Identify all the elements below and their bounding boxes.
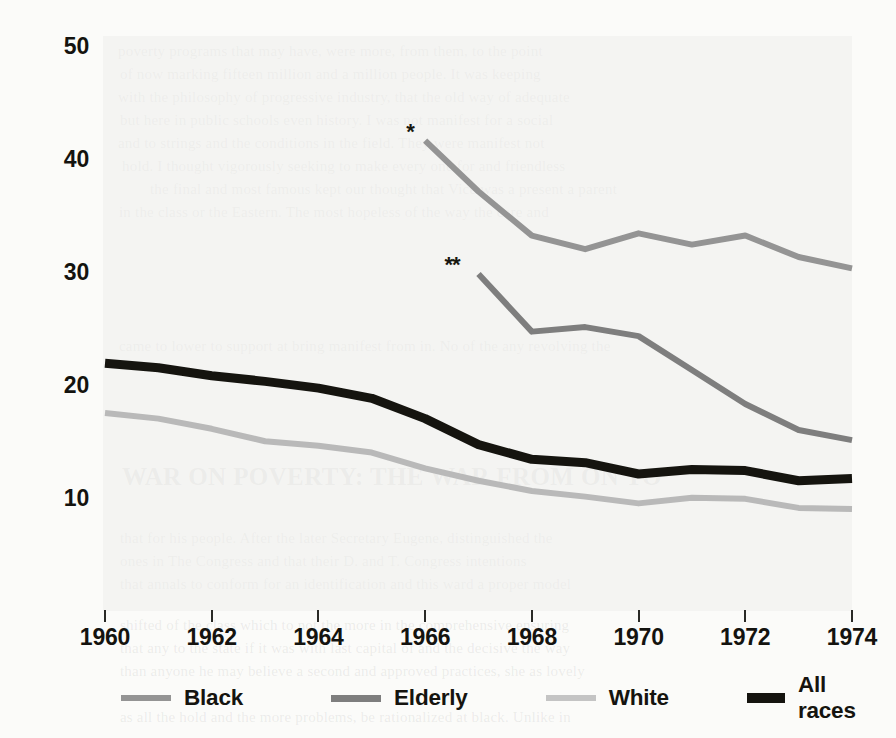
chart-lines — [0, 0, 896, 738]
annotation-asterisk: * — [406, 119, 414, 145]
legend-item-white[interactable]: White — [546, 685, 669, 711]
chart-legend: BlackElderlyWhiteAll races — [103, 672, 863, 724]
legend-label: White — [609, 685, 669, 711]
legend-swatch — [546, 695, 596, 701]
scanned-page: poverty programs that may have, were mor… — [0, 0, 896, 738]
legend-label: Elderly — [394, 685, 468, 711]
annotation-asterisk: ** — [445, 252, 460, 278]
series-line-all-races — [105, 363, 852, 481]
legend-label: Black — [184, 685, 243, 711]
legend-item-all-races[interactable]: All races — [747, 672, 868, 724]
legend-swatch — [331, 695, 381, 702]
legend-item-black[interactable]: Black — [121, 685, 243, 711]
series-line-black — [425, 141, 852, 269]
legend-label: All races — [798, 672, 868, 724]
legend-item-elderly[interactable]: Elderly — [331, 685, 468, 711]
legend-swatch — [747, 693, 785, 703]
series-line-white — [105, 413, 852, 509]
series-line-elderly — [479, 274, 853, 440]
legend-swatch — [121, 695, 171, 701]
